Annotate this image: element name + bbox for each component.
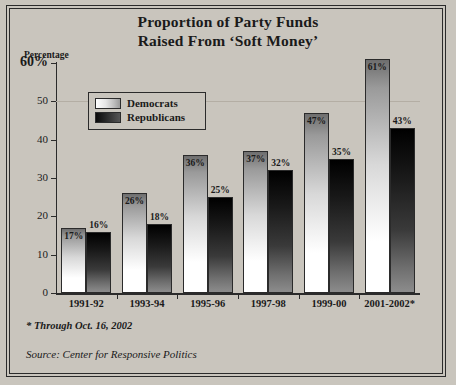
chart-source: Source: Center for Responsive Politics <box>26 348 197 360</box>
bar-democrats <box>304 113 329 293</box>
chart-footnote: * Through Oct. 16, 2002 <box>26 320 132 331</box>
x-tick-label: 1999-00 <box>311 298 346 309</box>
bar-value-democrats: 61% <box>368 62 387 72</box>
x-tick-mark <box>117 293 118 299</box>
bar-group: 47%35%1999-00 <box>299 62 360 294</box>
bar-democrats <box>183 155 208 293</box>
legend-swatch-democrats <box>95 98 121 109</box>
bar-value-democrats: 17% <box>64 231 83 241</box>
bar-republicans <box>86 232 111 293</box>
bar-group: 61%43%2001-2002* <box>359 62 420 294</box>
bar-republicans <box>268 170 293 293</box>
x-tick-mark <box>177 293 178 299</box>
bar-value-republicans: 18% <box>150 212 169 222</box>
bar-value-democrats: 36% <box>186 158 205 168</box>
legend-swatch-republicans <box>95 112 121 123</box>
bar-value-democrats: 47% <box>307 116 326 126</box>
x-tick-mark <box>238 293 239 299</box>
bar-democrats <box>365 59 390 293</box>
chart-figure: Proportion of Party Funds Raised From ‘S… <box>0 0 456 385</box>
chart-title: Proportion of Party Funds Raised From ‘S… <box>0 12 456 50</box>
bar-group: 37%32%1997-98 <box>238 62 299 294</box>
legend-item-republicans: Republicans <box>95 112 199 123</box>
x-tick-label: 2001-2002* <box>364 298 415 309</box>
bar-republicans <box>208 197 233 293</box>
legend-item-democrats: Democrats <box>95 98 199 109</box>
chart-title-line-1: Proportion of Party Funds <box>0 12 456 31</box>
x-tick-label: 1995-96 <box>190 298 225 309</box>
x-tick-label: 1991-92 <box>69 298 104 309</box>
x-tick-label: 1993-94 <box>129 298 164 309</box>
y-tick-label: 50 <box>12 94 48 106</box>
bar-republicans <box>329 159 354 293</box>
bar-value-republicans: 35% <box>332 147 351 157</box>
bar-democrats <box>243 151 268 293</box>
legend: Democrats Republicans <box>88 92 206 130</box>
bar-value-republicans: 32% <box>271 158 290 168</box>
bar-value-republicans: 25% <box>211 185 230 195</box>
bar-democrats <box>122 193 147 293</box>
y-tick-label: 60% <box>12 54 48 70</box>
x-tick-mark <box>299 293 300 299</box>
legend-label-democrats: Democrats <box>127 98 178 109</box>
bar-value-democrats: 26% <box>125 196 144 206</box>
bar-republicans <box>147 224 172 293</box>
bar-republicans <box>390 128 415 293</box>
y-tick-label: 0 <box>12 286 48 298</box>
bar-value-republicans: 16% <box>89 220 108 230</box>
y-tick-label: 10 <box>12 248 48 260</box>
x-tick-mark <box>359 293 360 299</box>
legend-label-republicans: Republicans <box>127 112 185 123</box>
y-tick-label: 40 <box>12 133 48 145</box>
chart-title-line-2: Raised From ‘Soft Money’ <box>0 31 456 50</box>
x-tick-label: 1997-98 <box>251 298 286 309</box>
y-tick-label: 20 <box>12 209 48 221</box>
y-tick-label: 30 <box>12 171 48 183</box>
bar-value-democrats: 37% <box>246 154 265 164</box>
bar-value-republicans: 43% <box>393 116 412 126</box>
